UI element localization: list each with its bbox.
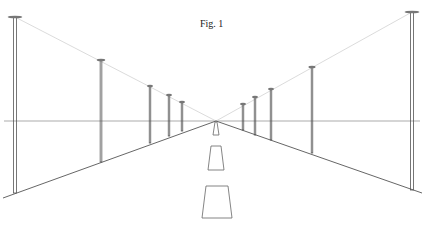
lamp-pole — [14, 17, 17, 193]
right-road-edge — [216, 121, 422, 193]
center-dash-mid — [208, 146, 224, 170]
lamp-pole — [168, 95, 170, 136]
lamp-pole — [100, 60, 102, 162]
lamp-head-icon — [268, 88, 274, 91]
center-dash-near — [202, 186, 232, 218]
lamp-head-icon — [308, 66, 315, 69]
lamp-pole — [270, 89, 272, 140]
lamp-head-icon — [405, 11, 420, 14]
lamp-pole — [411, 12, 414, 190]
lamp-head-icon — [8, 16, 23, 19]
left-guide-line — [15, 17, 216, 121]
lamp-head-icon — [147, 85, 153, 88]
lamp-head-icon — [179, 101, 185, 104]
lamp-poles — [8, 11, 420, 193]
lamp-pole — [181, 102, 183, 131]
left-road-edge — [3, 121, 216, 198]
lamp-pole — [311, 67, 313, 153]
lamp-pole — [254, 97, 256, 135]
lamp-head-icon — [252, 96, 258, 99]
perspective-drawing — [0, 0, 425, 231]
lamp-head-icon — [240, 103, 246, 106]
center-dash-far — [213, 122, 219, 135]
lamp-pole — [149, 86, 151, 143]
lamp-pole — [242, 104, 244, 130]
lamp-head-icon — [166, 94, 172, 97]
lamp-head-icon — [97, 59, 106, 62]
